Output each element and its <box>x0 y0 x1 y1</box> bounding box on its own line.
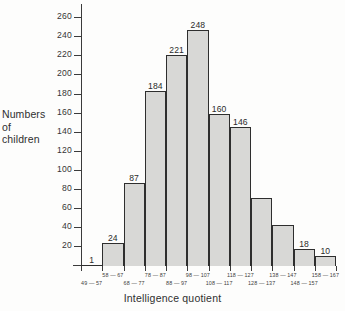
bar-value-label: 248 <box>190 20 205 30</box>
x-axis-tick-label: 108 — 117 <box>206 280 233 286</box>
y-axis-title-line-1: Numbers <box>2 108 60 121</box>
y-axis-tick: 60 <box>74 208 81 209</box>
y-axis-tick-label: 220 <box>57 49 72 59</box>
y-axis-tick: 220 <box>74 55 81 56</box>
y-axis-tick: 260 <box>74 17 81 18</box>
x-axis-tick-label: 49 — 57 <box>81 280 102 286</box>
x-axis-tick-label: 58 — 67 <box>102 272 123 278</box>
y-axis-tick-label: 100 <box>57 164 72 174</box>
y-axis-tick: 160 <box>74 113 81 114</box>
bar: 18 <box>294 249 315 266</box>
y-axis-tick: 40 <box>74 227 81 228</box>
y-axis-tick: 240 <box>74 36 81 37</box>
y-axis-tick-label: 160 <box>57 107 72 117</box>
x-axis-title: Intelligence quotient <box>0 292 345 304</box>
bar <box>251 198 272 266</box>
bar-value-label: 160 <box>212 104 227 114</box>
bar-series: 124871842212481601461810 <box>81 4 336 266</box>
bar: 221 <box>166 55 187 266</box>
bar-value-label: 18 <box>299 239 309 249</box>
bar <box>272 225 293 266</box>
x-axis-tick-label: 88 — 97 <box>166 280 187 286</box>
x-axis-tick-label: 148 — 157 <box>290 280 317 286</box>
y-axis-tick: 20 <box>74 246 81 247</box>
y-axis-tick: 140 <box>74 132 81 133</box>
y-axis-tick: 180 <box>74 94 81 95</box>
bar-value-label: 184 <box>148 81 163 91</box>
y-axis-title-line-2: of <box>2 121 60 134</box>
y-axis-title: Numbers of children <box>2 108 60 146</box>
x-axis-tick-label: 158 — 167 <box>312 272 339 278</box>
histogram-figure: Numbers of children 20406080100120140160… <box>0 0 345 311</box>
bar: 248 <box>187 30 208 266</box>
bar: 160 <box>209 114 230 266</box>
x-axis-tick-label: 98 — 107 <box>186 272 210 278</box>
x-axis-tick-label: 128 — 137 <box>248 280 275 286</box>
y-axis-tick: 120 <box>74 151 81 152</box>
bar-value-label: 87 <box>129 173 139 183</box>
y-axis-tick-label: 20 <box>62 240 72 250</box>
y-axis-tick-label: 40 <box>62 221 72 231</box>
bar-value-label: 221 <box>169 45 184 55</box>
bar: 24 <box>102 243 123 266</box>
x-axis-tick-labels: 49 — 5758 — 6768 — 7778 — 8788 — 9798 — … <box>81 266 344 288</box>
y-axis-tick-label: 200 <box>57 68 72 78</box>
x-axis-tick-label: 78 — 87 <box>145 272 166 278</box>
y-axis-tick-label: 120 <box>57 145 72 155</box>
bar: 87 <box>124 183 145 266</box>
bar: 10 <box>315 256 336 266</box>
y-axis-title-line-3: children <box>2 133 60 146</box>
bar: 146 <box>230 127 251 266</box>
x-axis-tick-label: 118 — 127 <box>227 272 254 278</box>
bar-value-label: 10 <box>320 246 330 256</box>
y-axis-tick-label: 240 <box>57 30 72 40</box>
y-axis-tick-label: 180 <box>57 88 72 98</box>
y-axis-tick: 200 <box>74 74 81 75</box>
y-axis-tick: 80 <box>74 189 81 190</box>
y-axis-tick-label: 260 <box>57 11 72 21</box>
bar: 184 <box>145 91 166 266</box>
x-axis-tick-label: 138 — 147 <box>269 272 296 278</box>
plot-area: 20406080100120140160180200220240260 1248… <box>81 4 336 266</box>
bar-value-label: 146 <box>233 117 248 127</box>
bar-value-label: 1 <box>89 255 94 265</box>
y-axis-tick-label: 80 <box>62 183 72 193</box>
y-axis-tick-label: 60 <box>62 202 72 212</box>
x-axis-tick-label: 68 — 77 <box>124 280 145 286</box>
bar-value-label: 24 <box>108 233 118 243</box>
y-axis-tick: 100 <box>74 170 81 171</box>
y-axis-tick-label: 140 <box>57 126 72 136</box>
